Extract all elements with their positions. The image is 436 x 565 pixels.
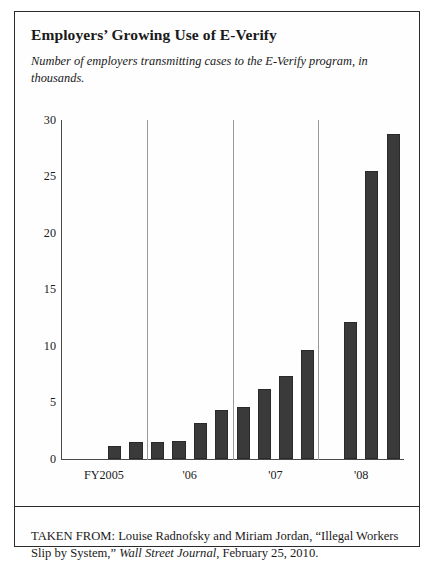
caption-suffix: , February 25, 2010. [216,546,318,560]
chart-container: 051015202530 FY2005'06'07'08 [15,120,419,505]
bar [258,389,271,459]
group-divider [318,120,319,460]
plot-area [61,120,404,460]
bar [172,441,185,459]
bar [215,410,228,459]
source-caption: TAKEN FROM: Louise Radnofsky and Miriam … [31,528,405,564]
chart-subtitle: Number of employers transmitting cases t… [31,53,383,87]
bar [108,446,121,458]
bar [279,376,292,458]
bar [344,322,357,459]
y-tick-label: 10 [44,340,56,352]
y-axis-line [61,120,62,460]
x-group-label: '08 [354,468,368,483]
group-divider [147,120,148,460]
bar [194,423,207,459]
bar [151,442,164,459]
x-group-label: '06 [182,468,196,483]
bar [387,134,400,459]
bar [365,171,378,459]
y-axis-tick-labels: 051015202530 [15,120,61,460]
figure-panel: Employers’ Growing Use of E-Verify Numbe… [14,11,420,547]
y-tick-label: 30 [44,114,56,126]
y-tick-label: 15 [44,283,56,295]
caption-divider [15,506,419,507]
bar [301,350,314,458]
figure-header: Employers’ Growing Use of E-Verify Numbe… [15,12,419,87]
y-tick-label: 5 [50,396,56,408]
y-tick-label: 25 [44,170,56,182]
caption-publication: Wall Street Journal [119,546,216,560]
x-group-label: '07 [268,468,282,483]
x-group-label: FY2005 [84,468,124,483]
y-tick-label: 0 [50,452,56,464]
bar [237,407,250,459]
x-axis-group-labels: FY2005'06'07'08 [61,468,404,490]
group-divider [233,120,234,460]
page-title: Employers’ Growing Use of E-Verify [31,26,403,44]
bar [129,442,142,459]
y-tick-label: 20 [44,227,56,239]
